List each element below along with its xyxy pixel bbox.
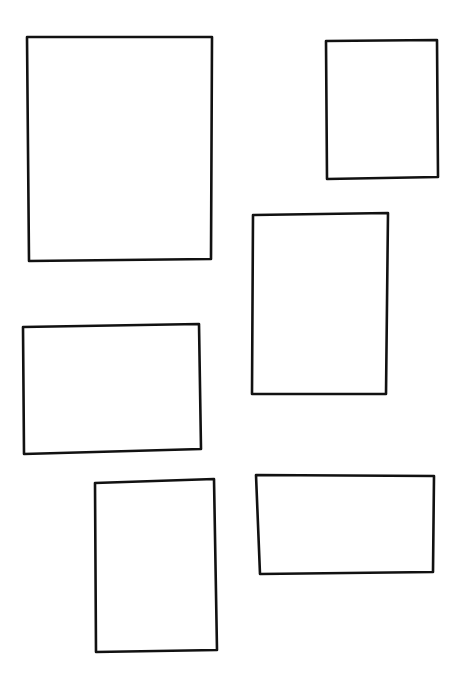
sketch-box-6	[256, 475, 434, 574]
sketch-box-5	[95, 479, 217, 652]
sketch-canvas	[0, 0, 462, 687]
sketch-box-4	[23, 324, 201, 454]
sketch-box-1	[27, 37, 212, 261]
sketch-box-3	[252, 213, 388, 394]
sketch-box-2	[326, 40, 438, 179]
